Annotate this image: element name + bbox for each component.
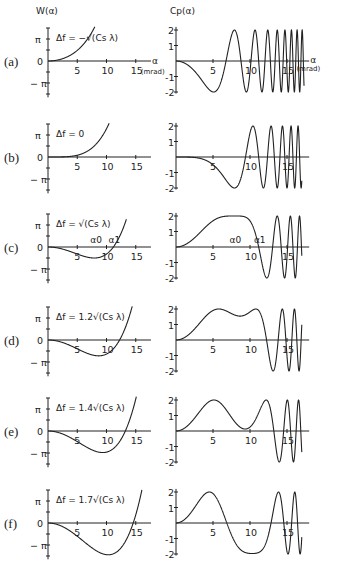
cp-plot: 21-1-251015 bbox=[165, 487, 309, 560]
cp-x-tick-label: 10 bbox=[245, 65, 257, 76]
defocus-label: Δf = 1.2√(Cs λ) bbox=[56, 312, 125, 322]
cp-x-tick-label: 5 bbox=[210, 527, 216, 538]
figure-canvas: (a)π0− π51015Δf = −√(Cs λ)W(α)α(mrad)21-… bbox=[0, 0, 341, 568]
w-y-label-neg-pi: − π bbox=[30, 448, 47, 459]
defocus-label: Δf = 1.7√(Cs λ) bbox=[56, 495, 125, 505]
w-plot: π0− π51015Δf = √(Cs λ)α0α1 bbox=[30, 214, 151, 283]
defocus-label: Δf = 0 bbox=[56, 129, 85, 139]
cp-x-tick-label: 10 bbox=[245, 161, 257, 172]
w-y-label-neg-pi: − π bbox=[30, 357, 47, 368]
w-x-tick-label: 15 bbox=[131, 527, 143, 538]
w-y-label-zero: 0 bbox=[37, 56, 43, 67]
w-y-label-zero: 0 bbox=[37, 518, 43, 529]
cp-plot: 21-1-251015Cp(α)α(mrad) bbox=[165, 6, 321, 98]
cp-x-axis-unit: (mrad) bbox=[296, 65, 320, 73]
cp-y-tick-label: 1 bbox=[168, 137, 174, 148]
cp-x-tick-label: 10 bbox=[245, 251, 257, 262]
cp-plot: 21-1-251015 bbox=[165, 304, 309, 377]
w-plot: π0− π51015Δf = 1.2√(Cs λ) bbox=[30, 306, 151, 376]
alpha0-label: α0 bbox=[90, 235, 102, 245]
w-y-label-pi: π bbox=[35, 496, 41, 507]
w-y-label-pi: π bbox=[35, 220, 41, 231]
alpha1-label: α1 bbox=[109, 235, 121, 245]
w-x-tick-label: 15 bbox=[131, 435, 143, 446]
cp-x-tick-label: 5 bbox=[210, 435, 216, 446]
cp-x-tick-label: 5 bbox=[210, 65, 216, 76]
w-y-label-zero: 0 bbox=[37, 426, 43, 437]
cp-plot: 21-1-251015 bbox=[165, 395, 309, 468]
panel-row-f: (f)π0− π51015Δf = 1.7√(Cs λ)21-1-251015 bbox=[4, 487, 309, 560]
panel-label: (c) bbox=[4, 240, 18, 255]
cp-y-tick-label: 2 bbox=[168, 211, 174, 222]
w-x-tick-label: 5 bbox=[74, 65, 80, 76]
defocus-label: Δf = 1.4√(Cs λ) bbox=[56, 403, 125, 413]
cp-axis-title: Cp(α) bbox=[170, 6, 195, 16]
cp-plot: 21-1-251015 bbox=[165, 121, 309, 194]
w-curve bbox=[48, 27, 95, 61]
cp-x-tick-label: 10 bbox=[245, 435, 257, 446]
alpha1-label: α1 bbox=[254, 235, 266, 245]
w-x-tick-label: 15 bbox=[131, 161, 143, 172]
w-x-tick-label: 15 bbox=[131, 251, 143, 262]
cp-y-tick-label: 1 bbox=[168, 503, 174, 514]
cp-y-tick-label: 2 bbox=[168, 121, 174, 132]
cp-y-tick-label: -2 bbox=[165, 183, 174, 194]
panel-row-a: (a)π0− π51015Δf = −√(Cs λ)W(α)α(mrad)21-… bbox=[4, 6, 321, 98]
w-y-label-neg-pi: − π bbox=[30, 264, 47, 275]
cp-x-tick-label: 10 bbox=[245, 344, 257, 355]
w-x-tick-label: 5 bbox=[74, 161, 80, 172]
cp-y-tick-label: -2 bbox=[165, 366, 174, 377]
cp-y-tick-label: 2 bbox=[168, 304, 174, 315]
w-y-label-pi: π bbox=[35, 404, 41, 415]
cp-y-tick-label: -2 bbox=[165, 549, 174, 560]
cp-x-tick-label: 5 bbox=[210, 251, 216, 262]
w-x-axis-unit: (mrad) bbox=[141, 68, 165, 76]
cp-y-tick-label: -1 bbox=[165, 168, 174, 179]
panel-label: (e) bbox=[4, 424, 18, 439]
cp-x-tick-label: 10 bbox=[245, 527, 257, 538]
cp-y-tick-label: 1 bbox=[168, 411, 174, 422]
w-plot: π0− π51015Δf = −√(Cs λ)W(α)α(mrad) bbox=[30, 6, 165, 97]
w-y-label-neg-pi: − π bbox=[30, 540, 47, 551]
w-x-tick-label: 10 bbox=[102, 161, 114, 172]
w-y-label-pi: π bbox=[35, 313, 41, 324]
cp-x-tick-label: 5 bbox=[210, 344, 216, 355]
cp-y-tick-label: -1 bbox=[165, 258, 174, 269]
cp-y-tick-label: 2 bbox=[168, 487, 174, 498]
w-y-label-pi: π bbox=[35, 130, 41, 141]
cp-y-tick-label: -1 bbox=[165, 351, 174, 362]
panel-label: (a) bbox=[4, 54, 18, 69]
panel-row-c: (c)π0− π51015Δf = √(Cs λ)α0α121-1-251015… bbox=[4, 211, 309, 284]
defocus-label: Δf = −√(Cs λ) bbox=[56, 33, 118, 43]
cp-y-tick-label: -1 bbox=[165, 534, 174, 545]
cp-x-axis-symbol: α bbox=[310, 55, 316, 65]
panel-label: (f) bbox=[4, 516, 17, 531]
cp-x-tick-label: 15 bbox=[282, 65, 294, 76]
cp-y-tick-label: -2 bbox=[165, 87, 174, 98]
alpha0-label: α0 bbox=[229, 235, 241, 245]
w-plot: π0− π51015Δf = 1.7√(Cs λ) bbox=[30, 490, 151, 559]
cp-y-tick-label: -1 bbox=[165, 442, 174, 453]
w-y-label-zero: 0 bbox=[37, 242, 43, 253]
cp-x-tick-label: 15 bbox=[282, 251, 294, 262]
panels: (a)π0− π51015Δf = −√(Cs λ)W(α)α(mrad)21-… bbox=[4, 6, 321, 560]
cp-y-tick-label: -1 bbox=[165, 72, 174, 83]
cp-x-tick-label: 15 bbox=[282, 435, 294, 446]
w-x-axis-symbol: α bbox=[152, 56, 158, 66]
panel-label: (b) bbox=[4, 150, 19, 165]
w-y-label-pi: π bbox=[35, 34, 41, 45]
panel-label: (d) bbox=[4, 333, 19, 348]
w-y-label-neg-pi: − π bbox=[30, 174, 47, 185]
cp-y-tick-label: 1 bbox=[168, 41, 174, 52]
cp-y-tick-label: 2 bbox=[168, 395, 174, 406]
panel-row-d: (d)π0− π51015Δf = 1.2√(Cs λ)21-1-251015 bbox=[4, 304, 309, 377]
w-x-tick-label: 10 bbox=[102, 527, 114, 538]
w-x-tick-label: 10 bbox=[102, 65, 114, 76]
w-y-label-zero: 0 bbox=[37, 335, 43, 346]
w-y-label-zero: 0 bbox=[37, 152, 43, 163]
w-plot: π0− π51015Δf = 1.4√(Cs λ) bbox=[30, 397, 151, 468]
cp-x-tick-label: 15 bbox=[282, 344, 294, 355]
cp-y-tick-label: 1 bbox=[168, 320, 174, 331]
panel-row-b: (b)π0− π51015Δf = 021-1-251015 bbox=[4, 121, 309, 194]
w-x-tick-label: 10 bbox=[102, 435, 114, 446]
